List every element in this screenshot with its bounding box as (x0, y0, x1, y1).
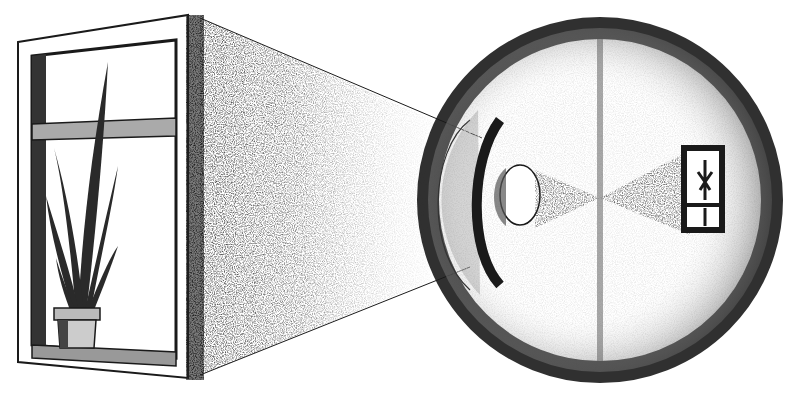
eye-image-formation-diagram (0, 0, 788, 406)
retina-image (684, 148, 722, 230)
flower-pot (54, 308, 100, 348)
eyeball (428, 28, 772, 372)
window-with-plant (18, 15, 204, 380)
